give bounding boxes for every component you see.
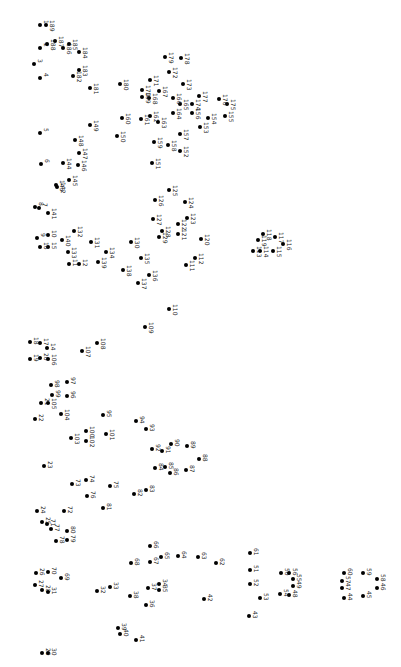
puzzle-dot xyxy=(120,116,124,120)
dot-number-label: 48 xyxy=(292,590,298,598)
dot-number-label: 86 xyxy=(173,468,179,476)
puzzle-dot xyxy=(181,82,185,86)
dot-number-label: 165 xyxy=(183,99,189,110)
puzzle-dot xyxy=(178,149,182,153)
puzzle-dot xyxy=(148,114,152,118)
dot-number-label: 125 xyxy=(172,185,178,196)
puzzle-dot xyxy=(184,468,188,472)
puzzle-dot xyxy=(54,183,58,187)
dot-number-label: 168 xyxy=(152,93,158,104)
dot-number-label: 41 xyxy=(139,635,145,643)
dot-number-label: 107 xyxy=(85,346,91,357)
dot-number-label: 40 xyxy=(123,629,129,637)
dot-number-label: 124 xyxy=(188,197,194,208)
puzzle-dot xyxy=(156,120,160,124)
puzzle-dot xyxy=(340,579,344,583)
puzzle-dot xyxy=(139,117,143,121)
puzzle-dot xyxy=(129,240,133,244)
puzzle-dot xyxy=(342,596,346,600)
dot-number-label: 64 xyxy=(181,551,187,559)
puzzle-dot xyxy=(199,237,203,241)
dot-number-label: 164 xyxy=(176,108,182,119)
puzzle-dot xyxy=(104,250,108,254)
puzzle-dot xyxy=(65,380,69,384)
puzzle-dot xyxy=(148,78,152,82)
puzzle-dot xyxy=(248,568,252,572)
puzzle-dot xyxy=(144,488,148,492)
dot-number-label: 63 xyxy=(201,552,207,560)
dot-number-label: 56 xyxy=(292,568,298,576)
puzzle-dot xyxy=(28,340,32,344)
puzzle-dot xyxy=(193,256,197,260)
dot-number-label: 150 xyxy=(120,131,126,142)
puzzle-dot xyxy=(129,561,133,565)
dot-number-label: 52 xyxy=(253,579,259,587)
dot-number-label: 112 xyxy=(198,253,204,264)
dot-number-label: 174 xyxy=(195,99,201,110)
puzzle-dot xyxy=(168,471,172,475)
dot-number-label: 122 xyxy=(181,219,187,230)
dot-number-label: 105 xyxy=(51,398,57,409)
dot-number-label: 12 xyxy=(82,259,88,267)
dot-number-label: 117 xyxy=(278,232,284,243)
puzzle-dot xyxy=(46,233,50,237)
dot-number-label: 159 xyxy=(157,137,163,148)
dot-number-label: 126 xyxy=(158,195,164,206)
dot-number-label: 54 xyxy=(283,589,289,597)
puzzle-dot xyxy=(217,97,221,101)
dot-number-label: 62 xyxy=(219,558,225,566)
dot-number-label: 51 xyxy=(253,565,259,573)
puzzle-dot xyxy=(271,249,275,253)
puzzle-dot xyxy=(143,325,147,329)
dot-number-label: 145 xyxy=(72,175,78,186)
dot-number-label: 26 xyxy=(39,568,45,576)
dot-number-label: 43 xyxy=(252,611,258,619)
puzzle-dot xyxy=(95,341,99,345)
dot-number-label: 94 xyxy=(139,416,145,424)
puzzle-dot xyxy=(84,429,88,433)
puzzle-dot xyxy=(147,273,151,277)
dot-to-dot-puzzle: 1234567891015161112141718192021222324252… xyxy=(0,0,401,667)
puzzle-dot xyxy=(118,82,122,86)
dot-number-label: 96 xyxy=(70,391,76,399)
dot-number-label: 163 xyxy=(161,117,167,128)
dot-number-label: 38 xyxy=(133,591,139,599)
dot-number-label: 24 xyxy=(40,506,46,514)
puzzle-dot xyxy=(46,357,50,361)
puzzle-dot xyxy=(258,596,262,600)
puzzle-dot xyxy=(38,46,42,50)
puzzle-dot xyxy=(71,74,75,78)
puzzle-dot xyxy=(144,603,148,607)
puzzle-dot xyxy=(46,401,50,405)
puzzle-dot xyxy=(171,96,175,100)
dot-number-label: 109 xyxy=(148,322,154,333)
dot-number-label: 139 xyxy=(101,257,107,268)
puzzle-dot xyxy=(89,240,93,244)
puzzle-dot xyxy=(54,539,58,543)
dot-number-label: 154 xyxy=(211,113,217,124)
dot-number-label: 151 xyxy=(155,158,161,169)
puzzle-dot xyxy=(67,262,71,266)
dot-number-label: 155 xyxy=(228,111,234,122)
puzzle-dot xyxy=(185,216,189,220)
puzzle-dot xyxy=(115,134,119,138)
dot-number-label: 120 xyxy=(204,234,210,245)
dot-number-label: 186 xyxy=(66,43,72,54)
dot-number-label: 73 xyxy=(75,479,81,487)
puzzle-dot xyxy=(148,544,152,548)
dot-number-label: 53 xyxy=(263,593,269,601)
puzzle-dot xyxy=(176,222,180,226)
puzzle-dot xyxy=(62,509,66,513)
puzzle-dot xyxy=(214,561,218,565)
dot-number-label: 79 xyxy=(70,535,76,543)
puzzle-dot xyxy=(361,571,365,575)
puzzle-dot xyxy=(166,143,170,147)
dot-number-label: 69 xyxy=(64,573,70,581)
puzzle-dot xyxy=(157,235,161,239)
puzzle-dot xyxy=(171,111,175,115)
dot-number-label: 76 xyxy=(90,491,96,499)
dot-number-label: 22 xyxy=(38,414,44,422)
dot-number-label: 123 xyxy=(190,213,196,224)
dot-number-label: 129 xyxy=(162,232,168,243)
dot-number-label: 32 xyxy=(100,586,106,594)
